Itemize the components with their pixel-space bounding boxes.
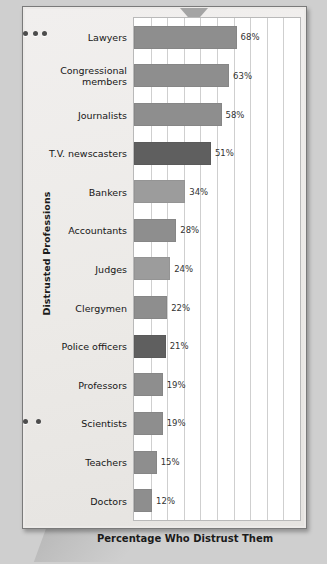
- bar: 28%: [134, 219, 176, 242]
- bar-value-label: 15%: [161, 457, 180, 467]
- bar-row: Lawyers68%: [134, 18, 300, 57]
- page-inner-surface: Distrusted Professions Lawyers68%Congres…: [25, 9, 304, 526]
- category-label: Clergymen: [7, 302, 127, 313]
- bar-value-label: 21%: [170, 341, 189, 351]
- bar-rows: Lawyers68%Congressional members63%Journa…: [134, 18, 300, 520]
- bar-value-label: 28%: [180, 225, 199, 235]
- bar: 68%: [134, 26, 237, 49]
- category-label: Doctors: [7, 495, 127, 506]
- bar-value-label: 58%: [226, 110, 245, 120]
- bar: 58%: [134, 103, 222, 126]
- x-axis-label: Percentage Who Distrust Them: [65, 533, 305, 544]
- bar-value-label: 19%: [167, 380, 186, 390]
- bar-row: Accountants28%: [134, 211, 300, 250]
- bar-value-label: 34%: [189, 187, 208, 197]
- bar: 24%: [134, 257, 170, 280]
- chart-page-sheet: Distrusted Professions Lawyers68%Congres…: [22, 6, 307, 529]
- category-label: Bankers: [7, 186, 127, 197]
- spiral-binding-icon: [23, 417, 41, 426]
- bar-value-label: 19%: [167, 418, 186, 428]
- bar: 51%: [134, 142, 211, 165]
- bar-row: Journalists58%: [134, 95, 300, 134]
- bar-row: Doctors12%: [134, 481, 300, 520]
- category-label: Judges: [7, 263, 127, 274]
- bar-value-label: 51%: [215, 148, 234, 158]
- bar-value-label: 12%: [156, 496, 175, 506]
- bar: 12%: [134, 489, 152, 512]
- spiral-binding-icon: [23, 29, 47, 38]
- category-label: Police officers: [7, 341, 127, 352]
- category-label: Accountants: [7, 225, 127, 236]
- category-label: T.V. newscasters: [7, 148, 127, 159]
- bar-value-label: 22%: [171, 303, 190, 313]
- bar: 19%: [134, 412, 163, 435]
- bar-row: Judges24%: [134, 250, 300, 289]
- bar-value-label: 24%: [174, 264, 193, 274]
- bar-row: Scientists19%: [134, 404, 300, 443]
- bar-row: Clergymen22%: [134, 288, 300, 327]
- category-label: Professors: [7, 379, 127, 390]
- bar-row: Bankers34%: [134, 172, 300, 211]
- category-label: Teachers: [7, 457, 127, 468]
- bar-value-label: 63%: [233, 71, 252, 81]
- bar: 22%: [134, 296, 167, 319]
- bar-row: Congressional members63%: [134, 57, 300, 96]
- bar-row: Professors19%: [134, 365, 300, 404]
- category-label: Congressional members: [7, 65, 127, 87]
- bar-row: T.V. newscasters51%: [134, 134, 300, 173]
- bar: 19%: [134, 373, 163, 396]
- bar-chart: Distrusted Professions Lawyers68%Congres…: [25, 9, 304, 526]
- bar-value-label: 68%: [241, 32, 260, 42]
- bar: 21%: [134, 335, 166, 358]
- bar: 15%: [134, 451, 157, 474]
- category-label: Journalists: [7, 109, 127, 120]
- bar: 63%: [134, 64, 229, 87]
- plot-area: Lawyers68%Congressional members63%Journa…: [133, 17, 301, 521]
- bar-row: Police officers21%: [134, 327, 300, 366]
- bar: 34%: [134, 180, 185, 203]
- bar-row: Teachers15%: [134, 443, 300, 482]
